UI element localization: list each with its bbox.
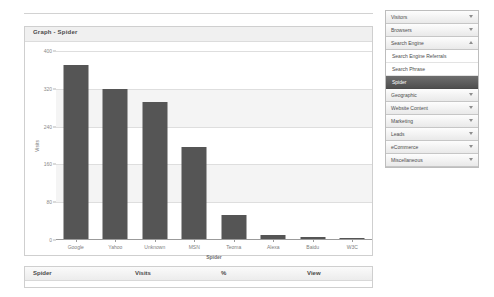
- chart-bar[interactable]: [142, 102, 167, 239]
- x-tick-label: Alexa: [267, 244, 280, 250]
- x-tick-label: Unknown: [144, 244, 165, 250]
- sidebar-section-label: eCommerce: [391, 144, 418, 150]
- spider-table: Spider Visits % View: [24, 266, 373, 288]
- sidebar-section-label: Marketing: [391, 118, 413, 124]
- sidebar-section-label: Visitors: [391, 14, 407, 20]
- sidebar-item-label: Search Engine Referrals: [392, 53, 446, 59]
- bar-group: Google: [56, 51, 96, 239]
- chevron-down-icon: [469, 145, 473, 148]
- sidebar-section-label: Leads: [391, 131, 405, 137]
- sidebar-section-ecommerce[interactable]: eCommerce: [386, 141, 478, 154]
- sidebar-section-label: Geographic: [391, 92, 417, 98]
- bar-group: Alexa: [254, 51, 294, 239]
- y-tick-label: 400: [44, 48, 52, 54]
- bar-group: Yahoo: [96, 51, 136, 239]
- chart-bars: GoogleYahooUnknownMSNTeomaAlexaBaiduW3C: [56, 51, 372, 239]
- bar-group: W3C: [333, 51, 373, 239]
- y-axis-label: Visits: [34, 140, 40, 152]
- x-axis-label: Spider: [56, 254, 372, 260]
- table-col-spider[interactable]: Spider: [33, 270, 52, 276]
- sidebar-section-search-engine[interactable]: Search Engine: [386, 37, 478, 50]
- y-tick-label: 240: [44, 124, 52, 130]
- bar-chart-plot-area: Visits 080160240320400 GoogleYahooUnknow…: [56, 51, 372, 240]
- spider-graph-panel: Graph - Spider Visits 080160240320400 Go…: [24, 26, 373, 256]
- bar-group: Unknown: [135, 51, 175, 239]
- y-tick-label: 320: [44, 86, 52, 92]
- x-tick-label: Google: [68, 244, 84, 250]
- x-axis-line: [56, 239, 372, 240]
- sidebar-section-label: Browsers: [391, 27, 412, 33]
- y-tick-label: 0: [49, 237, 52, 243]
- sidebar-item-label: Spider: [392, 79, 406, 85]
- table-col-percent[interactable]: %: [221, 270, 226, 276]
- table-col-view[interactable]: View: [307, 270, 321, 276]
- graph-title: Graph - Spider: [33, 29, 77, 35]
- chevron-down-icon: [469, 106, 473, 109]
- chart-bar[interactable]: [63, 65, 88, 239]
- chevron-down-icon: [469, 158, 473, 161]
- x-tick-label: Baidu: [306, 244, 319, 250]
- sidebar-section-leads[interactable]: Leads: [386, 128, 478, 141]
- chevron-down-icon: [469, 15, 473, 18]
- sidebar-section-label: Search Engine: [391, 40, 424, 46]
- bar-group: Baidu: [293, 51, 333, 239]
- chevron-down-icon: [469, 93, 473, 96]
- bar-group: Teoma: [214, 51, 254, 239]
- sidebar-section-marketing[interactable]: Marketing: [386, 115, 478, 128]
- chart-bar[interactable]: [103, 89, 128, 239]
- y-tick-label: 80: [46, 199, 52, 205]
- sidebar-section-browsers[interactable]: Browsers: [386, 24, 478, 37]
- sidebar-item-search-phrase[interactable]: Search Phrase: [386, 63, 478, 76]
- sidebar-section-geographic[interactable]: Geographic: [386, 89, 478, 102]
- sidebar-item-search-engine-referrals[interactable]: Search Engine Referrals: [386, 50, 478, 63]
- table-col-visits[interactable]: Visits: [135, 270, 151, 276]
- chevron-down-icon: [469, 119, 473, 122]
- x-tick-label: MSN: [189, 244, 200, 250]
- sidebar-section-miscellaneous[interactable]: Miscellaneous: [386, 154, 478, 167]
- chart-bar[interactable]: [221, 215, 246, 239]
- report-nav-sidebar: VisitorsBrowsersSearch EngineSearch Engi…: [385, 10, 479, 168]
- x-tick-label: Teoma: [226, 244, 241, 250]
- chevron-up-icon: [469, 41, 473, 44]
- chevron-down-icon: [469, 28, 473, 31]
- bar-group: MSN: [175, 51, 215, 239]
- chevron-down-icon: [469, 132, 473, 135]
- content-top-divider: [24, 13, 373, 14]
- sidebar-section-label: Website Content: [391, 105, 428, 111]
- y-tick-label: 160: [44, 161, 52, 167]
- analytics-page: Graph - Spider Visits 080160240320400 Go…: [0, 0, 494, 297]
- sidebar-section-website-content[interactable]: Website Content: [386, 102, 478, 115]
- chart-bar[interactable]: [182, 147, 207, 239]
- sidebar-item-label: Search Phrase: [392, 66, 425, 72]
- sidebar-section-label: Miscellaneous: [391, 157, 423, 163]
- x-tick-label: Yahoo: [108, 244, 122, 250]
- x-tick-label: W3C: [347, 244, 358, 250]
- sidebar-item-spider[interactable]: Spider: [386, 76, 478, 89]
- sidebar-section-visitors[interactable]: Visitors: [386, 11, 478, 24]
